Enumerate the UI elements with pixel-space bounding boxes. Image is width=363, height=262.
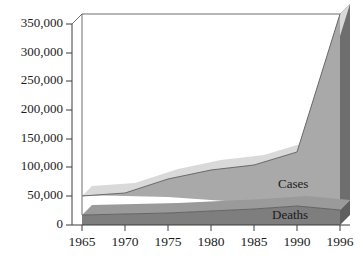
y-tick-label: 100,000 <box>21 158 63 173</box>
y-tick-label: 250,000 <box>21 72 63 87</box>
series-label-cases: Cases <box>278 176 308 191</box>
y-tick-label: 300,000 <box>21 44 63 59</box>
y-tick-label: 150,000 <box>21 130 63 145</box>
y-tick-label: 0 <box>57 216 64 231</box>
x-tick-label: 1990 <box>284 234 311 249</box>
y-tick-label: 200,000 <box>21 101 63 116</box>
chart-container: 350,000 300,000 250,000 200,000 150,000 … <box>0 0 363 262</box>
x-tick-label: 1985 <box>241 234 268 249</box>
x-tick-label: 1980 <box>198 234 225 249</box>
area-chart-3d: 350,000 300,000 250,000 200,000 150,000 … <box>0 0 363 262</box>
x-tick-label: 1996 <box>327 234 354 249</box>
series-label-deaths: Deaths <box>272 207 308 222</box>
y-tick-label: 50,000 <box>27 187 63 202</box>
cases-side-face <box>340 4 350 210</box>
x-tick-label: 1970 <box>112 234 139 249</box>
y-tick-label: 350,000 <box>21 15 63 30</box>
x-tick-label: 1975 <box>155 234 182 249</box>
x-tick-label: 1965 <box>69 234 96 249</box>
